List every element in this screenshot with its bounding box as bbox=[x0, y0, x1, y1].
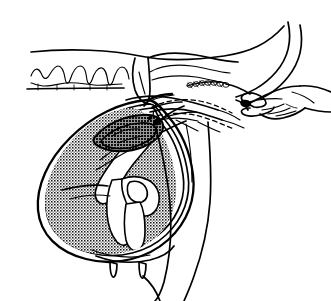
figure-container: Inguinal hernia repair — sagittal cutawa… bbox=[0, 0, 331, 301]
anatomical-illustration bbox=[0, 0, 331, 301]
